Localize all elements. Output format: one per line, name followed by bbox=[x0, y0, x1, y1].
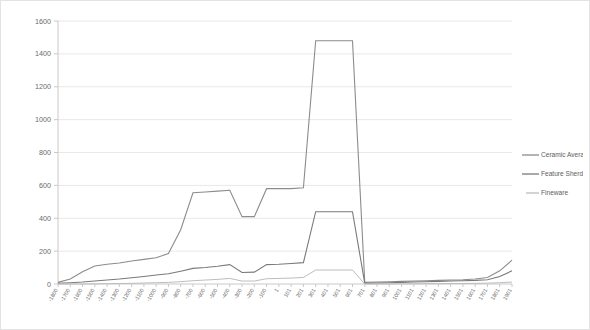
chart-canvas: 02004006008001000120014001600 -1800-1700… bbox=[9, 7, 583, 325]
x-tick-label: -1700 bbox=[59, 288, 71, 303]
x-tick-label: 101 bbox=[282, 288, 292, 299]
x-tick-label: 1501 bbox=[453, 288, 464, 301]
x-tick-label: 201 bbox=[295, 288, 305, 299]
legend-label-1: Feature Sherds bbox=[541, 170, 583, 177]
x-tick-label: -700 bbox=[183, 288, 194, 300]
gridlines bbox=[58, 21, 512, 251]
x-tick-label: 1101 bbox=[404, 288, 415, 301]
chart-frame: 02004006008001000120014001600 -1800-1700… bbox=[0, 0, 590, 330]
x-tick-label: -1300 bbox=[108, 288, 120, 303]
y-axis-labels: 02004006008001000120014001600 bbox=[35, 17, 51, 289]
x-tick-label: -1100 bbox=[133, 288, 145, 303]
x-tick-label: -300 bbox=[232, 288, 243, 300]
x-tick-label: 701 bbox=[356, 288, 366, 299]
x-tick-label: 1001 bbox=[391, 288, 402, 301]
y-tick-label: 1000 bbox=[35, 115, 51, 124]
y-tick-label: 1200 bbox=[35, 82, 51, 91]
x-tick-label: 1301 bbox=[428, 288, 439, 301]
y-tick-label: 600 bbox=[39, 181, 51, 190]
x-tick-label: -500 bbox=[208, 288, 219, 300]
x-tick-label: -900 bbox=[159, 288, 170, 300]
x-tick-label: 301 bbox=[307, 288, 317, 299]
x-tick-label: 601 bbox=[344, 288, 354, 299]
x-tick-label: -200 bbox=[245, 288, 256, 300]
x-tick-label: 801 bbox=[368, 288, 378, 299]
x-tick-label: -1800 bbox=[47, 288, 59, 303]
x-tick-label: 1401 bbox=[440, 288, 451, 301]
x-tick-label: -1000 bbox=[145, 288, 157, 303]
x-tick-label: -1500 bbox=[84, 288, 96, 303]
legend-label-0: Ceramic Averages bbox=[541, 151, 583, 159]
x-tick-label: -800 bbox=[171, 288, 182, 300]
x-axis-labels: -1800-1700-1600-1500-1400-1300-1200-1100… bbox=[47, 288, 513, 303]
x-tick-label: 401 bbox=[319, 288, 329, 299]
x-tick-label: -1600 bbox=[71, 288, 83, 303]
chart-legend: Ceramic AveragesFeature SherdsFineware bbox=[522, 151, 583, 196]
legend-label-2: Fineware bbox=[541, 189, 568, 196]
x-tick-label: -1400 bbox=[96, 288, 108, 303]
y-axis-ticks bbox=[54, 21, 58, 284]
x-tick-label: 1601 bbox=[465, 288, 476, 301]
y-tick-label: 200 bbox=[39, 247, 51, 256]
data-series-group bbox=[58, 41, 512, 284]
y-tick-label: 1600 bbox=[35, 17, 51, 26]
x-tick-label: -100 bbox=[257, 288, 268, 300]
y-tick-label: 1400 bbox=[35, 49, 51, 58]
y-tick-label: 400 bbox=[39, 214, 51, 223]
x-tick-label: 901 bbox=[380, 288, 390, 299]
x-tick-label: 1901 bbox=[502, 288, 513, 301]
x-tick-label: -600 bbox=[196, 288, 207, 300]
x-tick-label: -400 bbox=[220, 288, 231, 300]
series-line-1 bbox=[58, 212, 512, 284]
series-line-0 bbox=[58, 41, 512, 283]
x-tick-label: 1 bbox=[273, 288, 280, 294]
series-line-2 bbox=[58, 270, 512, 284]
x-tick-label: 1801 bbox=[489, 288, 500, 301]
x-tick-label: -1200 bbox=[120, 288, 132, 303]
x-tick-label: 1201 bbox=[416, 288, 427, 301]
x-tick-label: 1701 bbox=[477, 288, 488, 301]
y-tick-label: 0 bbox=[47, 280, 51, 289]
x-tick-label: 501 bbox=[331, 288, 341, 299]
line-chart: 02004006008001000120014001600 -1800-1700… bbox=[9, 7, 583, 325]
y-tick-label: 800 bbox=[39, 148, 51, 157]
